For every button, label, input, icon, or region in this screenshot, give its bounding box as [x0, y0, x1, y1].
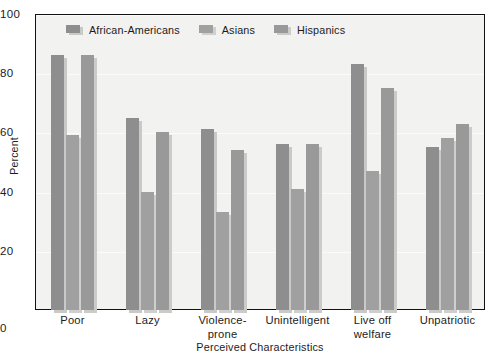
- legend-label: African-Americans: [89, 24, 180, 36]
- legend-swatch-icon: [199, 25, 216, 35]
- x-axis-tick-label: Violence- prone: [198, 314, 246, 341]
- x-axis-tick-label: Poor: [60, 314, 84, 328]
- gridline: [36, 74, 484, 75]
- y-axis-tick-100: 100: [0, 8, 31, 20]
- x-axis-tick-label: Live off welfare: [354, 314, 391, 341]
- y-axis-tick-40: 40: [0, 186, 31, 198]
- gridline: [36, 252, 484, 253]
- gridline: [36, 193, 484, 194]
- gridline: [36, 15, 484, 16]
- legend-swatch-icon: [66, 25, 83, 35]
- x-axis-tick-label: Unintelligent: [265, 314, 329, 328]
- legend-swatch-fill: [274, 25, 288, 33]
- x-axis-title: Perceived Characteristics: [35, 341, 485, 353]
- gridline: [36, 133, 484, 134]
- y-axis-tick-0: 0: [0, 322, 31, 334]
- legend-swatch-icon: [274, 25, 291, 35]
- legend-entry-african-americans[interactable]: African-Americans: [66, 24, 180, 36]
- legend-entry-asians[interactable]: Asians: [199, 24, 255, 36]
- legend-label: Asians: [222, 24, 255, 36]
- y-axis-tick-20: 20: [0, 245, 31, 257]
- legend-swatch-fill: [66, 25, 80, 33]
- legend: African-AmericansAsiansHispanics: [66, 24, 345, 36]
- x-axis-tick-label: Unpatriotic: [420, 314, 476, 328]
- plot-area: [35, 14, 485, 310]
- y-axis-tick-60: 60: [0, 126, 31, 138]
- y-axis-tick-80: 80: [0, 67, 31, 79]
- x-axis-tick-label: Lazy: [135, 314, 159, 328]
- bar-chart: Percent 100806040200 African-AmericansAs…: [0, 0, 492, 355]
- legend-swatch-fill: [199, 25, 213, 33]
- legend-entry-hispanics[interactable]: Hispanics: [274, 24, 345, 36]
- legend-label: Hispanics: [297, 24, 345, 36]
